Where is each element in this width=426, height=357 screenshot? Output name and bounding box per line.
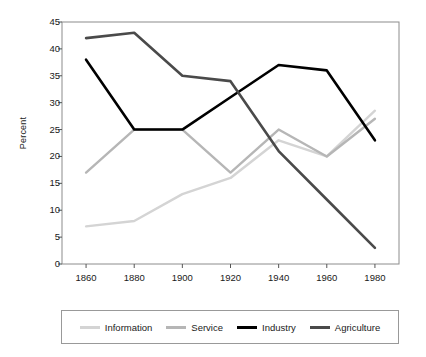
y-tick-label: 40 <box>49 44 60 54</box>
legend-swatch-icon <box>166 326 186 329</box>
plot-frame <box>62 22 399 264</box>
legend-swatch-icon <box>237 326 257 329</box>
chart-legend: InformationServiceIndustryAgriculture <box>61 310 399 344</box>
legend-item-industry[interactable]: Industry <box>237 322 296 333</box>
x-tick-label: 1900 <box>162 272 202 283</box>
legend-items: InformationServiceIndustryAgriculture <box>62 311 398 343</box>
y-tick-label: 0 <box>55 259 60 269</box>
legend-item-agriculture[interactable]: Agriculture <box>310 322 380 333</box>
x-tick-label: 1960 <box>307 272 347 283</box>
y-tick-label: 15 <box>49 178 60 188</box>
legend-label: Agriculture <box>335 322 380 333</box>
y-tick-label: 20 <box>49 151 60 161</box>
x-tick-label: 1980 <box>355 272 395 283</box>
legend-label: Information <box>105 322 153 333</box>
y-axis-tick-labels: 051015202530354045 <box>38 0 60 357</box>
chart-plot-area <box>0 0 426 357</box>
y-axis-title: Percent <box>18 103 28 163</box>
y-tick-label: 10 <box>49 205 60 215</box>
x-tick-label: 1920 <box>211 272 251 283</box>
y-tick-label: 35 <box>49 71 60 81</box>
y-tick-label: 5 <box>55 232 60 242</box>
y-tick-label: 30 <box>49 98 60 108</box>
line-chart-figure: Percent 051015202530354045 1860188019001… <box>0 0 426 357</box>
x-tick-label: 1880 <box>114 272 154 283</box>
x-tick-label: 1860 <box>66 272 106 283</box>
legend-swatch-icon <box>80 326 100 329</box>
legend-label: Industry <box>262 322 296 333</box>
legend-item-service[interactable]: Service <box>166 322 223 333</box>
x-tick-label: 1940 <box>259 272 299 283</box>
y-tick-label: 45 <box>49 17 60 27</box>
legend-item-information[interactable]: Information <box>80 322 153 333</box>
legend-swatch-icon <box>310 326 330 329</box>
legend-label: Service <box>191 322 223 333</box>
y-tick-label: 25 <box>49 125 60 135</box>
